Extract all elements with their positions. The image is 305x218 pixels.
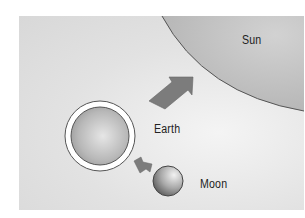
earth-label: Earth bbox=[154, 122, 180, 136]
moon-label: Moon bbox=[200, 177, 227, 191]
arrow-earth-to-moon-icon bbox=[134, 157, 152, 173]
sun-icon bbox=[162, 16, 304, 111]
diagram-panel: Sun Earth Moon bbox=[19, 16, 304, 210]
sun-label: Sun bbox=[242, 33, 261, 47]
arrow-earth-to-sun-icon bbox=[149, 77, 193, 109]
moon-icon bbox=[153, 166, 183, 196]
earth-icon bbox=[65, 101, 135, 171]
